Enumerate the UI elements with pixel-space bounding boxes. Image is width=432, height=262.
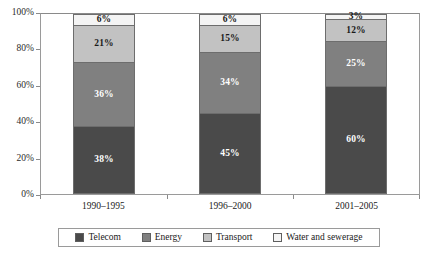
stacked-bar[interactable]: 3%12%25%60% [325, 14, 387, 194]
bar-segment[interactable]: 60% [325, 86, 387, 194]
legend-item[interactable]: Energy [142, 233, 182, 243]
legend-item-label: Energy [155, 233, 182, 243]
legend-item[interactable]: Water and sewerage [273, 233, 362, 243]
bar-segment-value-label: 12% [346, 26, 366, 36]
y-axis-tick-label: 40% [0, 117, 34, 127]
chart-legend: TelecomEnergyTransportWater and sewerage [58, 228, 380, 247]
bar-segment[interactable]: 34% [199, 52, 261, 113]
bar-segment-value-label: 6% [97, 15, 112, 25]
bar-group: 3%12%25%60% [293, 14, 419, 194]
y-axis-tick-label: 20% [0, 154, 34, 164]
x-axis-category-label: 2001–2005 [293, 199, 420, 213]
bar-segment[interactable]: 6% [73, 14, 135, 25]
bar-segment[interactable]: 45% [199, 113, 261, 194]
legend-item-label: Transport [216, 233, 253, 243]
bar-segment-value-label: 36% [94, 90, 114, 100]
bar-segment[interactable]: 15% [199, 25, 261, 52]
legend-item-label: Telecom [88, 233, 121, 243]
bar-segment-value-label: 6% [223, 15, 238, 25]
bar-segment-value-label: 34% [220, 78, 240, 88]
legend-item[interactable]: Transport [203, 233, 253, 243]
stacked-bar[interactable]: 6%15%34%45% [199, 14, 261, 194]
bar-segment-value-label: 38% [94, 155, 114, 165]
bar-segment[interactable]: 25% [325, 41, 387, 86]
bar-segment-value-label: 21% [94, 39, 114, 49]
bar-segment-value-label: 25% [346, 59, 366, 69]
y-axis-tick-label: 80% [0, 44, 34, 54]
bar-segment[interactable]: 12% [325, 19, 387, 41]
legend-swatch-icon [142, 233, 151, 242]
stacked-bar[interactable]: 6%21%36%38% [73, 14, 135, 194]
legend-swatch-icon [203, 233, 212, 242]
legend-item[interactable]: Telecom [75, 233, 121, 243]
x-axis-category-label: 1990–1995 [40, 199, 167, 213]
bar-segment-value-label: 15% [220, 34, 240, 44]
x-axis-category-label: 1996–2000 [167, 199, 294, 213]
bars-container: 6%21%36%38%6%15%34%45%3%12%25%60% [41, 14, 419, 194]
legend-swatch-icon [75, 233, 84, 242]
bar-segment[interactable]: 21% [73, 25, 135, 62]
bar-segment[interactable]: 6% [199, 14, 261, 25]
stacked-bar-chart: 100%80%60%40%20%0% 6%21%36%38%6%15%34%45… [0, 0, 432, 262]
x-axis-category-labels: 1990–19951996–20002001–2005 [40, 199, 420, 213]
y-axis-tick-label: 60% [0, 81, 34, 91]
y-axis-tick-label: 0% [0, 190, 34, 200]
bar-segment-value-label: 45% [220, 149, 240, 159]
legend-item-label: Water and sewerage [286, 233, 362, 243]
bar-segment[interactable]: 38% [73, 126, 135, 194]
bar-group: 6%21%36%38% [41, 14, 167, 194]
bar-segment-value-label: 60% [346, 135, 366, 145]
y-axis-tick-label: 100% [0, 8, 34, 18]
legend-swatch-icon [273, 233, 282, 242]
bar-group: 6%15%34%45% [167, 14, 293, 194]
bar-segment[interactable]: 36% [73, 62, 135, 126]
